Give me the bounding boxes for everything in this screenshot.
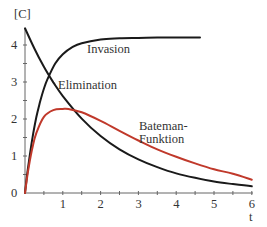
y-tick-label: 0 [11,186,17,200]
chart-canvas: 12345601234 [C] t Invasion Elimination B… [0,0,267,227]
axis-ticks: 12345601234 [11,38,255,211]
y-tick-label: 3 [11,75,17,89]
series-invasion [25,38,200,193]
y-tick-label: 4 [11,38,18,52]
x-tick-label: 4 [173,197,180,211]
x-tick-label: 2 [98,197,104,211]
x-tick-label: 6 [249,197,255,211]
y-tick-label: 2 [11,112,17,126]
label-bateman-line1: Bateman- [139,119,188,133]
series-elimination [25,28,252,186]
x-tick-label: 1 [60,197,66,211]
plot-lines [25,28,252,193]
label-elimination: Elimination [58,78,118,92]
x-tick-label: 3 [135,197,141,211]
x-tick-label: 5 [211,197,217,211]
y-axis-label: [C] [14,7,31,21]
x-axis-label: t [249,210,253,224]
label-invasion: Invasion [87,42,131,56]
label-bateman-line2: Funktion [139,132,185,146]
y-tick-label: 1 [11,149,17,163]
